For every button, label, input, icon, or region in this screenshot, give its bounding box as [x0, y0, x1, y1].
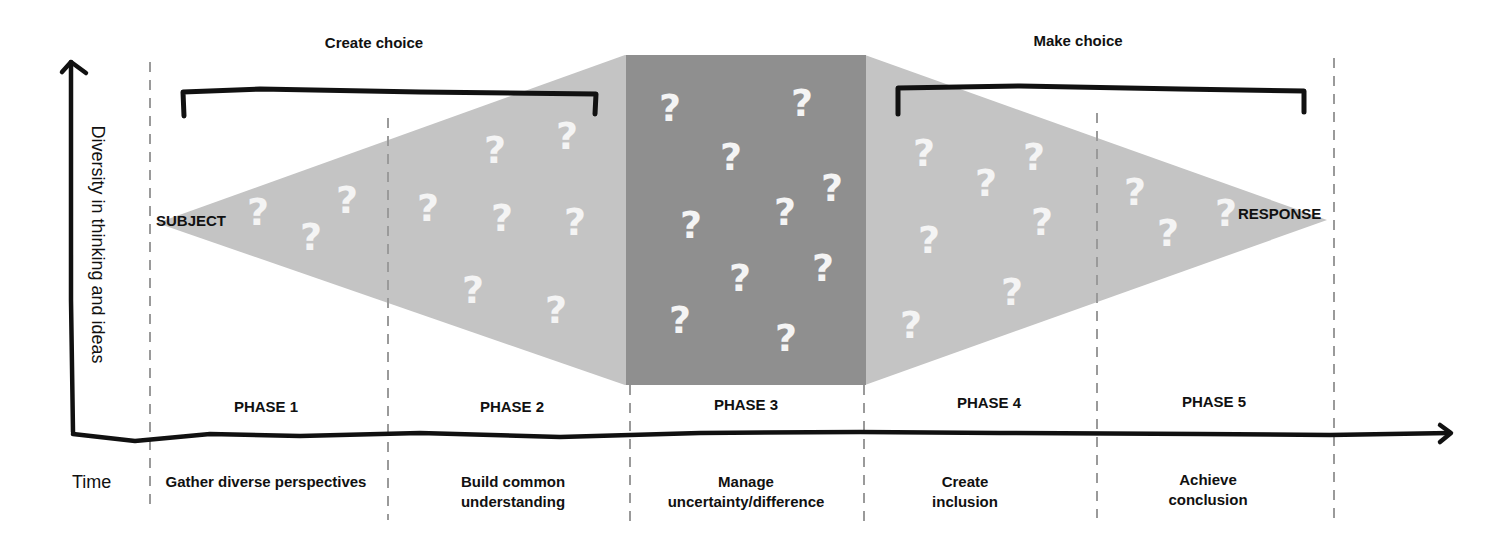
- phase-4-description: Create inclusion: [920, 472, 1010, 512]
- question-mark-icon: ?: [484, 131, 506, 169]
- question-mark-icon: ?: [1124, 173, 1146, 211]
- question-mark-icon: ?: [913, 134, 935, 172]
- x-axis-label: Time: [72, 472, 111, 493]
- y-axis: [71, 62, 73, 432]
- question-mark-icon: ?: [1023, 138, 1045, 176]
- phase-5-description: Achieve conclusion: [1138, 470, 1278, 510]
- x-axis: [73, 432, 1450, 441]
- phase-2-description: Build common understanding: [428, 472, 598, 512]
- question-mark-icon: ?: [669, 301, 691, 339]
- phase-4-label: PHASE 4: [889, 394, 1089, 411]
- phase-5-label: PHASE 5: [1114, 393, 1314, 410]
- phase-3-label: PHASE 3: [646, 396, 846, 413]
- question-mark-icon: ?: [462, 271, 484, 309]
- question-mark-icon: ?: [900, 306, 922, 344]
- make-choice-title: Make choice: [1018, 32, 1138, 49]
- subject-label: SUBJECT: [156, 212, 226, 229]
- question-mark-icon: ?: [336, 181, 358, 219]
- phase-3-description: Manage uncertainty/difference: [656, 472, 836, 512]
- question-mark-icon: ?: [1031, 203, 1053, 241]
- question-mark-icon: ?: [791, 84, 813, 122]
- question-mark-icon: ?: [247, 193, 269, 231]
- question-mark-icon: ?: [729, 259, 751, 297]
- question-mark-icon: ?: [774, 193, 796, 231]
- question-mark-icon: ?: [975, 164, 997, 202]
- create-choice-title: Create choice: [314, 34, 434, 51]
- phase-2-label: PHASE 2: [412, 398, 612, 415]
- y-axis-label: Diversity in thinking and ideas: [87, 115, 108, 375]
- phase-1-description: Gather diverse perspectives: [146, 472, 386, 492]
- question-mark-icon: ?: [918, 221, 940, 259]
- question-mark-icon: ?: [417, 189, 439, 227]
- question-mark-icon: ?: [556, 117, 578, 155]
- question-mark-icon: ?: [775, 319, 797, 357]
- question-mark-icon: ?: [720, 138, 742, 176]
- response-label: RESPONSE: [1238, 205, 1321, 222]
- question-mark-icon: ?: [821, 169, 843, 207]
- question-mark-icon: ?: [1001, 273, 1023, 311]
- diagram-canvas: [0, 0, 1504, 541]
- question-mark-icon: ?: [491, 199, 513, 237]
- y-axis-arrowhead: [62, 62, 86, 73]
- question-mark-icon: ?: [1157, 214, 1179, 252]
- question-mark-icon: ?: [545, 291, 567, 329]
- question-mark-icon: ?: [659, 89, 681, 127]
- question-mark-icon: ?: [1215, 194, 1237, 232]
- phase-1-label: PHASE 1: [166, 398, 366, 415]
- question-mark-icon: ?: [564, 203, 586, 241]
- question-mark-icon: ?: [300, 218, 322, 256]
- question-mark-icon: ?: [680, 206, 702, 244]
- question-mark-icon: ?: [812, 249, 834, 287]
